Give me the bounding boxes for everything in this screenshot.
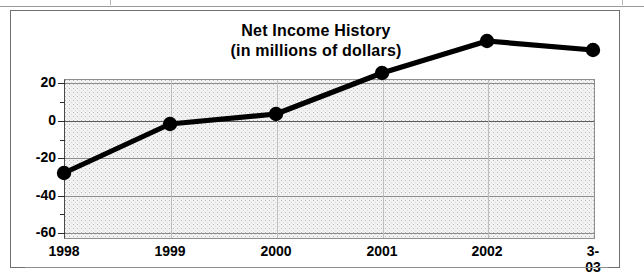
ytick--40 [58, 196, 65, 197]
chart-container: Net Income History (in millions of dolla… [10, 10, 620, 268]
y-axis-label--60: -60 [36, 225, 56, 239]
y-axis-labels: 20 0 -20 -40 -60 [11, 79, 56, 237]
y-axis-label--40: -40 [36, 188, 56, 202]
x-axis-label-2000: 2000 [260, 243, 291, 259]
sliver-segment [0, 0, 111, 5]
gridline-0 [65, 121, 594, 122]
x-axis-label-2002: 2002 [471, 243, 502, 259]
gridline--60 [65, 233, 594, 234]
ytick--60 [58, 233, 65, 234]
gridline--20 [65, 158, 594, 159]
gridline--40 [65, 196, 594, 197]
vgridline-2000 [277, 80, 278, 238]
y-axis-label--20: -20 [36, 150, 56, 164]
ytick--50 [60, 214, 65, 215]
x-axis-label-1999: 1999 [154, 243, 185, 259]
vgridline-2002 [488, 80, 489, 238]
x-axis-labels: 1998 1999 2000 2001 2002 3-03 [11, 243, 621, 265]
ytick--20 [58, 158, 65, 159]
sliver-segment [110, 0, 623, 5]
ytick-10 [60, 102, 65, 103]
chart-title: Net Income History (in millions of dolla… [11, 21, 621, 61]
ytick--10 [60, 140, 65, 141]
y-axis-label-20: 20 [40, 75, 56, 89]
ytick-20 [58, 83, 65, 84]
cut-off-element-above [0, 0, 644, 7]
x-axis-label-1998: 1998 [48, 243, 79, 259]
vgridline-1999 [171, 80, 172, 238]
gridline-20 [65, 83, 594, 84]
x-axis-label-3-03: 3-03 [579, 243, 607, 275]
chart-title-line2: (in millions of dollars) [11, 41, 621, 61]
plot-area [64, 79, 595, 239]
vgridline-2001 [383, 80, 384, 238]
ytick--30 [60, 177, 65, 178]
x-axis-label-2001: 2001 [366, 243, 397, 259]
bottom-rule [25, 267, 608, 268]
ytick-0 [58, 121, 65, 122]
y-axis-label-0: 0 [48, 113, 56, 127]
chart-title-line1: Net Income History [241, 22, 390, 39]
